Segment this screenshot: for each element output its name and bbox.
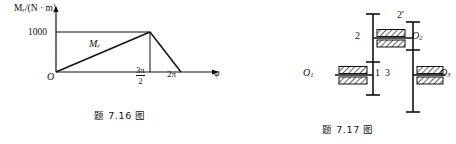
gear-2-lower-block: [377, 40, 405, 47]
gear-diagram-canvas: [240, 0, 456, 122]
figure-7-17: 题 7.17 图: [240, 0, 456, 144]
gear-1-lower-block: [339, 77, 367, 84]
origin-label: O: [47, 72, 54, 82]
gear-1-label: 1: [375, 68, 380, 78]
gear-2-label: 2: [355, 31, 360, 41]
curve-label-subscript: r: [97, 42, 100, 49]
bearing-O1-subscript: 1: [310, 71, 313, 78]
fraction-denominator: 2: [136, 77, 145, 86]
bearing-O3-label: O3: [440, 68, 450, 79]
curve-falling-segment: [150, 32, 181, 72]
bearing-O3-subscript: 3: [447, 71, 450, 78]
gear-3-label: 3: [385, 68, 390, 78]
y-tick-label-1000: 1000: [28, 28, 47, 38]
gear-2-upper-block: [377, 30, 405, 37]
y-axis-label-units: /(N · m): [25, 3, 56, 13]
figure-caption-7-16: 题 7.16 图: [0, 108, 240, 122]
gear-1-upper-block: [339, 67, 367, 74]
x-tick-label-3pi-over-2: 3π 2: [136, 66, 145, 86]
figure-caption-7-17: 题 7.17 图: [240, 122, 456, 136]
gear-2-prime-label: 2': [397, 10, 404, 20]
bearing-O1-label: O1: [303, 68, 313, 79]
figure-7-16: Mr/(N · m) 1000 O φ 3π 2 2π Mr 题 7.16 图: [0, 0, 240, 144]
y-axis-label: Mr/(N · m): [14, 4, 56, 14]
chart-canvas: [0, 0, 240, 108]
x-axis-label: φ: [214, 68, 220, 78]
curve-label: Mr: [89, 39, 100, 50]
bearing-O2-subscript: 2: [419, 34, 422, 41]
x-tick-label-2pi: 2π: [167, 70, 176, 79]
bearing-O2-label: O2: [412, 31, 422, 42]
fraction-numerator: 3π: [136, 66, 145, 75]
